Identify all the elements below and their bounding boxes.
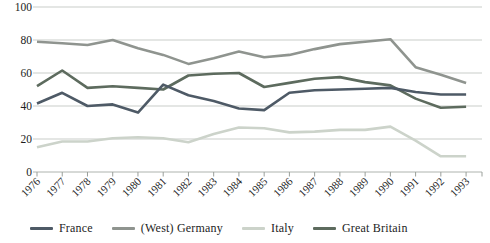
x-tick-label-1983: 1983 xyxy=(195,175,219,199)
x-tick-label-1992: 1992 xyxy=(422,175,446,199)
x-tick-label-1985: 1985 xyxy=(246,175,270,199)
legend-swatch-west-germany xyxy=(112,227,135,230)
x-tick-label-1993: 1993 xyxy=(447,175,471,199)
legend-item-west-germany: (West) Germany xyxy=(112,221,223,236)
legend-label-great-britain: Great Britain xyxy=(342,221,408,236)
series-line-italy xyxy=(37,127,466,157)
legend-swatch-france xyxy=(30,227,53,230)
x-tick-label-1980: 1980 xyxy=(119,175,143,199)
legend-label-france: France xyxy=(59,221,93,236)
legend-swatch-great-britain xyxy=(313,227,336,230)
x-tick-label-1977: 1977 xyxy=(44,175,68,199)
y-tick-label-80: 80 xyxy=(21,34,33,46)
legend-swatch-italy xyxy=(242,227,265,230)
x-tick-label-1986: 1986 xyxy=(271,175,295,199)
x-tick-label-1989: 1989 xyxy=(346,175,370,199)
legend-item-france: France xyxy=(30,221,93,236)
x-tick-label-1990: 1990 xyxy=(372,175,396,199)
legend-item-italy: Italy xyxy=(242,221,294,236)
x-tick-label-1976: 1976 xyxy=(18,175,42,199)
series-line-france xyxy=(37,85,466,113)
series-line-west-germany xyxy=(37,39,466,83)
line-chart-figure: { "chart_data": { "type": "line", "title… xyxy=(0,0,490,243)
y-tick-label-100: 100 xyxy=(15,1,33,13)
x-tick-label-1982: 1982 xyxy=(170,175,194,199)
x-tick-label-1981: 1981 xyxy=(145,175,169,199)
x-tick-label-1988: 1988 xyxy=(321,175,345,199)
legend-label-west-germany: (West) Germany xyxy=(141,221,223,236)
x-tick-label-1987: 1987 xyxy=(296,175,320,199)
legend-label-italy: Italy xyxy=(271,221,294,236)
x-tick-label-1979: 1979 xyxy=(94,175,118,199)
y-tick-label-20: 20 xyxy=(21,133,33,145)
y-tick-label-60: 60 xyxy=(21,67,33,79)
chart-plot-area: 0204060801001976197719781979198019811982… xyxy=(0,0,490,217)
chart-legend: France(West) GermanyItalyGreat Britain xyxy=(30,219,408,237)
y-tick-label-40: 40 xyxy=(21,100,33,112)
x-tick-label-1978: 1978 xyxy=(69,175,93,199)
y-tick-label-0: 0 xyxy=(26,166,32,178)
legend-item-great-britain: Great Britain xyxy=(313,221,408,236)
x-tick-label-1991: 1991 xyxy=(397,175,421,199)
x-tick-label-1984: 1984 xyxy=(220,175,244,199)
